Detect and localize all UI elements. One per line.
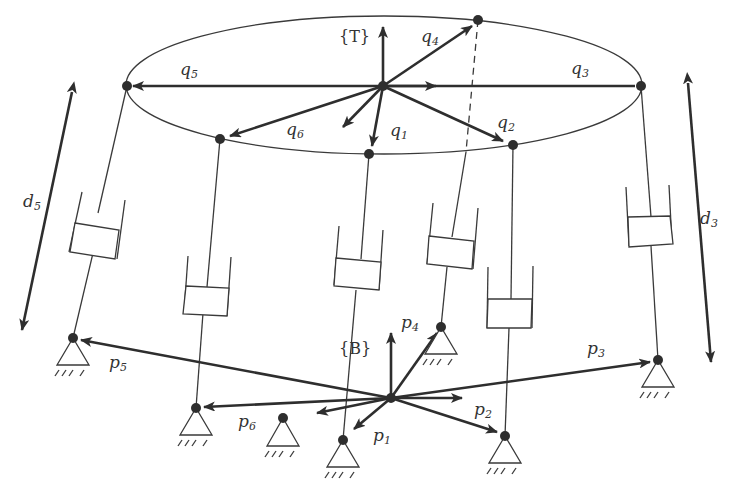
d3-label: d3: [700, 208, 718, 230]
stewart-platform-diagram: {T} {B} q5 q3 q4 q6 q1 q2 p5 p3 p4 p6 p1…: [0, 0, 736, 497]
actuator-2: [487, 266, 533, 328]
ground-support-extra: [265, 413, 299, 457]
frame-T-label: {T}: [339, 27, 370, 46]
q6-label: q6: [286, 119, 304, 141]
q4-label: q4: [421, 26, 439, 48]
q1-label: q1: [390, 120, 408, 142]
ground-support-1: [325, 435, 359, 478]
base-origin: [386, 393, 396, 403]
p6-label: p6: [238, 411, 256, 433]
p5-label: p5: [109, 352, 127, 374]
d5-label: d5: [23, 191, 41, 213]
d5-length-arrow: [22, 92, 72, 330]
actuator-cylinders: [69, 185, 673, 328]
ground-support-2: [487, 431, 521, 474]
frame-B-label: {B}: [339, 339, 371, 358]
q5-label: q5: [180, 59, 198, 81]
ground-support-6: [178, 403, 212, 446]
q2-label: q2: [497, 112, 515, 134]
p1-label: p1: [373, 425, 391, 447]
actuator-1: [334, 226, 383, 290]
p2-label: p2: [474, 399, 492, 421]
p3-label: p3: [587, 338, 605, 360]
actuator-5: [69, 192, 125, 259]
q3-label: q3: [571, 58, 589, 80]
p4-label: p4: [401, 312, 419, 334]
